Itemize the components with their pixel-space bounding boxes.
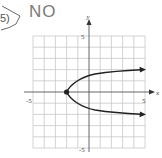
y-max-tick-label: 5: [81, 33, 85, 41]
x-axis-arrow-icon: [149, 90, 155, 95]
x-axis-label: x: [155, 89, 160, 97]
x-max-tick-label: 5: [142, 97, 146, 105]
y-axis-label: y: [86, 13, 91, 21]
vertex-point: [64, 89, 69, 94]
axes: [24, 22, 152, 152]
x-min-tick-label: -5: [26, 97, 32, 105]
coordinate-plane: x y -5 5 5 -5: [0, 0, 162, 158]
y-min-tick-label: -5: [79, 146, 85, 154]
